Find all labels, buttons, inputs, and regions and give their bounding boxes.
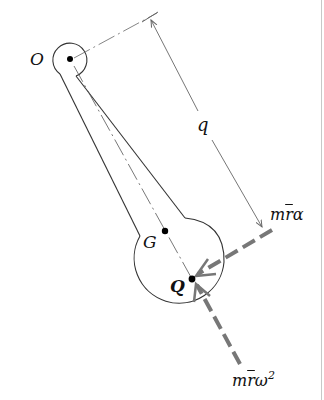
centerline: [74, 66, 192, 279]
center-of-percussion-q: [189, 276, 196, 283]
dimension-tick: [142, 12, 158, 22]
force-vector-tangential: [196, 230, 272, 276]
pivot-point-o: [67, 56, 73, 62]
force-vector-normal: [194, 284, 240, 364]
label-mass: m: [232, 371, 247, 390]
label-center-of-percussion-q: Q: [170, 278, 185, 295]
label-distance-q: q: [197, 116, 209, 134]
extension-line: [74, 13, 157, 58]
label-mass: m: [270, 205, 285, 224]
label-tangential-force: mrα: [270, 207, 304, 223]
label-pivot-o: O: [30, 51, 44, 68]
label-rbar: r: [247, 371, 255, 390]
dimension-q-lower: [212, 140, 262, 227]
label-rbar: r: [285, 205, 293, 224]
dimension-q-upper: [151, 20, 198, 111]
label-omega: ω: [255, 371, 268, 390]
label-exponent: 2: [268, 369, 275, 382]
label-center-of-mass-g: G: [143, 234, 157, 251]
image-border: [321, 0, 322, 400]
label-normal-force: mrω2: [232, 370, 275, 389]
pendulum-diagram: [0, 0, 324, 400]
center-of-mass-g: [162, 228, 168, 234]
pendulum-body: [53, 43, 224, 303]
label-alpha: α: [293, 205, 304, 224]
